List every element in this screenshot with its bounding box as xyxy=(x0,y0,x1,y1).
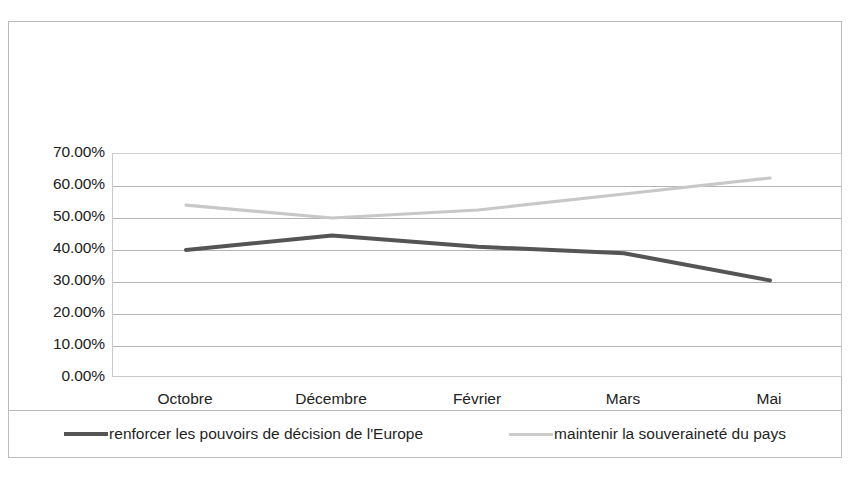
y-axis-tick-label: 0.00% xyxy=(17,368,105,384)
y-axis-tick-label: 30.00% xyxy=(17,272,105,288)
y-axis-tick-label: 10.00% xyxy=(17,336,105,352)
legend-item-maintenir: maintenir la souveraineté du pays xyxy=(509,425,786,443)
y-axis-tick-label: 60.00% xyxy=(17,176,105,192)
x-axis-tick-label: Mai xyxy=(757,390,782,408)
legend-label: maintenir la souveraineté du pays xyxy=(554,425,786,443)
series-lines xyxy=(113,154,843,378)
legend-swatch-dark xyxy=(64,432,108,436)
chart-frame: 70.00% 60.00% 50.00% 40.00% 30.00% 20.00… xyxy=(8,21,842,411)
y-axis-tick-label: 40.00% xyxy=(17,240,105,256)
y-axis-tick-label: 70.00% xyxy=(17,144,105,160)
legend-item-renforcer: renforcer les pouvoirs de décision de l'… xyxy=(64,425,423,443)
legend-swatch-light xyxy=(509,433,553,436)
x-axis-tick-label: Février xyxy=(453,390,501,408)
x-axis-tick-label: Octobre xyxy=(157,390,212,408)
plot-area xyxy=(112,153,842,377)
x-axis-tick-label: Décembre xyxy=(295,390,367,408)
chart-legend: renforcer les pouvoirs de décision de l'… xyxy=(8,411,842,458)
y-axis-tick-label: 20.00% xyxy=(17,304,105,320)
legend-label: renforcer les pouvoirs de décision de l'… xyxy=(109,425,423,443)
series-line-maintenir xyxy=(186,178,770,218)
x-axis-tick-label: Mars xyxy=(606,390,640,408)
series-line-renforcer xyxy=(186,236,770,281)
chart-root: 70.00% 60.00% 50.00% 40.00% 30.00% 20.00… xyxy=(0,0,852,477)
y-axis-tick-label: 50.00% xyxy=(17,208,105,224)
